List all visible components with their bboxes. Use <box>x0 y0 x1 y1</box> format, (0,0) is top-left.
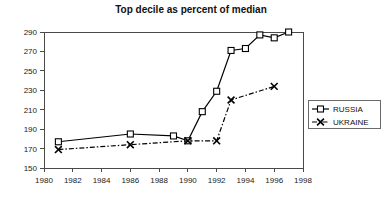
chart-title: Top decile as percent of median <box>115 4 267 15</box>
series-line-russia <box>58 32 288 142</box>
y-tick-label: 250 <box>24 67 38 76</box>
data-point-russia[interactable] <box>214 88 220 94</box>
y-tick-label: 270 <box>24 47 38 56</box>
legend-label-ukraine[interactable]: UKRAINE <box>333 118 369 127</box>
data-point-russia[interactable] <box>55 139 61 145</box>
x-tick-label: 1986 <box>121 176 139 185</box>
chart-container: Top decile as percent of median150170190… <box>0 0 382 198</box>
x-tick-label: 1990 <box>179 176 197 185</box>
x-tick-label: 1984 <box>93 176 111 185</box>
legend-label-russia[interactable]: RUSSIA <box>333 105 363 114</box>
data-point-russia[interactable] <box>271 35 277 41</box>
y-tick-label: 290 <box>24 28 38 37</box>
data-point-ukraine[interactable] <box>213 137 220 144</box>
data-point-russia[interactable] <box>257 32 263 38</box>
y-tick-label: 190 <box>24 125 38 134</box>
data-point-russia[interactable] <box>286 29 292 35</box>
line-chart: Top decile as percent of median150170190… <box>0 0 382 198</box>
y-tick-label: 170 <box>24 145 38 154</box>
x-tick-label: 1982 <box>64 176 82 185</box>
x-tick-label: 1988 <box>150 176 168 185</box>
series-line-ukraine <box>58 86 274 149</box>
x-tick-label: 1998 <box>294 176 312 185</box>
x-tick-label: 1996 <box>265 176 283 185</box>
x-tick-label: 1992 <box>208 176 226 185</box>
y-tick-label: 210 <box>24 106 38 115</box>
data-point-russia[interactable] <box>242 46 248 52</box>
y-tick-label: 230 <box>24 86 38 95</box>
y-tick-label: 150 <box>24 164 38 173</box>
data-point-ukraine[interactable] <box>271 83 278 90</box>
data-point-russia[interactable] <box>127 131 133 137</box>
data-point-russia[interactable] <box>171 133 177 139</box>
legend-marker-russia <box>318 106 324 112</box>
data-point-ukraine[interactable] <box>228 97 235 104</box>
x-tick-label: 1994 <box>237 176 255 185</box>
data-point-russia[interactable] <box>228 47 234 53</box>
x-tick-label: 1980 <box>35 176 53 185</box>
data-point-russia[interactable] <box>199 109 205 115</box>
